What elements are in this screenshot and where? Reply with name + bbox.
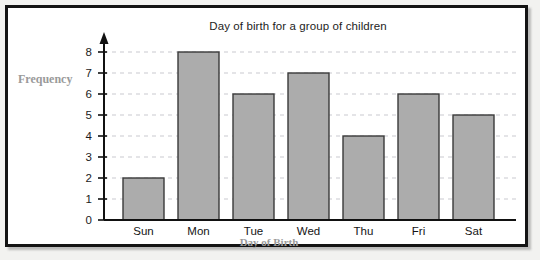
bar <box>178 52 219 220</box>
x-tick-label: Thu <box>354 225 374 237</box>
x-tick-label: Wed <box>297 225 320 237</box>
bar <box>398 94 439 220</box>
x-tick-label: Fri <box>412 225 425 237</box>
y-axis-ticks: 012345678 <box>86 46 107 226</box>
chart-frame: Day of birth for a group of children Fre… <box>5 5 528 247</box>
y-tick-label: 5 <box>86 109 92 121</box>
y-tick-label: 0 <box>86 214 92 226</box>
y-tick-label: 7 <box>86 67 92 79</box>
bars <box>123 52 494 220</box>
y-tick-label: 4 <box>86 130 93 142</box>
y-tick-label: 8 <box>86 46 92 58</box>
bar <box>288 73 329 220</box>
screenshot-root: Day of birth for a group of children Fre… <box>0 0 540 260</box>
y-tick-label: 1 <box>86 193 92 205</box>
x-tick-label: Mon <box>187 225 209 237</box>
bar <box>343 136 384 220</box>
x-tick-label: Sun <box>133 225 153 237</box>
y-tick-label: 2 <box>86 172 92 184</box>
chart-area: Day of birth for a group of children Fre… <box>8 8 525 244</box>
bar <box>453 115 494 220</box>
x-tick-label: Tue <box>244 225 263 237</box>
y-axis-arrow-icon <box>100 32 109 44</box>
y-tick-label: 6 <box>86 88 92 100</box>
bar <box>233 94 274 220</box>
bar-chart-plot: 012345678 SunMonTueWedThuFriSat <box>8 8 525 244</box>
x-axis-tick-labels: SunMonTueWedThuFriSat <box>133 225 483 237</box>
y-tick-label: 3 <box>86 151 92 163</box>
x-tick-label: Sat <box>465 225 483 237</box>
bar <box>123 178 164 220</box>
